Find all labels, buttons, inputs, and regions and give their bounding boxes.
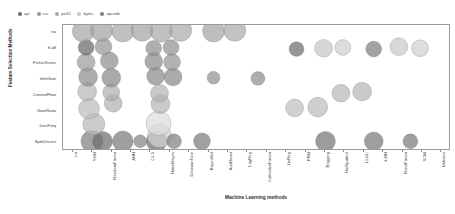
bubble-marker [146, 111, 171, 136]
bubble-marker [315, 39, 333, 57]
x-axis-tick-label: k-NN [384, 152, 388, 162]
bubble-marker [289, 42, 304, 57]
legend-label: rss [43, 12, 49, 16]
plot-area [62, 24, 450, 150]
x-axis-tick-label: Bagging [326, 152, 330, 167]
x-axis-title: Machine Learning methods [62, 196, 450, 201]
x-axis-tick-label: PRM [307, 152, 311, 161]
x-axis-tick-label: no [74, 152, 78, 157]
bubble-chart-figure: apirsspe32bytesopcode Feature Selection … [0, 0, 455, 214]
bubble-marker [134, 135, 147, 148]
legend-label: opcode [106, 12, 120, 16]
bubble-marker [102, 68, 121, 87]
legend-swatch-icon [37, 12, 41, 16]
bubble-marker [163, 40, 179, 56]
bubble-marker [308, 97, 328, 117]
legend-label: pe32 [61, 12, 70, 16]
x-axis-tick-label: kMeans [442, 152, 446, 167]
bubble-marker [203, 25, 225, 42]
legend-swatch-icon [18, 12, 22, 16]
y-axis-tick-label: tf-idf [48, 45, 56, 49]
x-axis-tick-label: SOM [423, 152, 427, 162]
y-axis-tick-label: SymUncert [35, 140, 56, 144]
bubble-marker [167, 134, 182, 149]
x-axis-tick-label: NaiveBayes [171, 152, 175, 174]
bubble-layer [63, 25, 449, 149]
bubble-marker [335, 40, 351, 56]
bubble-marker [77, 53, 95, 71]
bubble-marker [390, 38, 408, 56]
y-axis-tick-label: DocFreq [40, 124, 56, 128]
y-axis-tick-label: GainRatio [37, 108, 56, 112]
x-axis-tick-label: AdaBoost [229, 152, 233, 170]
y-axis-tick-label: FisherScore [33, 61, 56, 65]
legend-swatch-icon [100, 12, 104, 16]
x-axis-tick-label: BayesNet [210, 152, 214, 170]
x-axis-tick-label: RandomForest [113, 152, 117, 180]
bubble-marker [353, 82, 372, 101]
bubble-marker [316, 131, 336, 149]
bubble-marker [207, 71, 220, 84]
legend-swatch-icon [77, 12, 81, 16]
bubble-marker [112, 131, 133, 149]
bubble-marker [91, 25, 113, 41]
x-axis-tick-label: LinReg [287, 152, 291, 165]
bubble-marker [366, 41, 382, 57]
x-axis-tick-label: RandForest [404, 152, 408, 174]
x-axis-tick-label: DecisionTree [190, 152, 194, 177]
x-axis-tick-label: SVM [93, 152, 97, 161]
bubble-marker [412, 40, 429, 57]
bubble-marker [251, 72, 265, 86]
x-axis-tick-label: ANN [132, 152, 136, 161]
legend-item[interactable]: rss [37, 12, 49, 16]
legend-label: bytes [83, 12, 93, 16]
bubble-marker [78, 40, 94, 56]
x-axis-tick-label: C4.5 [151, 152, 155, 161]
bubble-marker [131, 25, 153, 41]
y-axis-tick-label: no [51, 30, 56, 34]
bubble-marker [146, 40, 162, 56]
bubble-marker [164, 54, 181, 71]
x-axis-tick-label: LogReg [248, 152, 252, 167]
bubble-marker [224, 25, 246, 41]
bubble-marker [332, 84, 350, 102]
legend-item[interactable]: api [18, 12, 30, 16]
legend-item[interactable]: opcode [100, 12, 120, 16]
legend-item[interactable]: pe32 [55, 12, 70, 16]
y-axis-labels: SymUncertDocFreqGainRatioControlFlowInfo… [0, 24, 60, 150]
x-axis-tick-label: LLGC [365, 152, 369, 163]
y-axis-tick-label: ControlFlow [33, 93, 56, 97]
bubble-marker [286, 99, 304, 117]
bubble-marker [364, 132, 383, 149]
legend-label: api [24, 12, 30, 16]
legend-item[interactable]: bytes [77, 12, 93, 16]
bubble-marker [150, 25, 172, 42]
bubble-marker [79, 98, 100, 119]
bubble-marker [151, 84, 169, 102]
bubble-marker [403, 134, 418, 149]
legend-swatch-icon [55, 12, 59, 16]
bubble-marker [112, 25, 134, 42]
bubble-marker [170, 25, 192, 41]
chart-legend: apirsspe32bytesopcode [18, 9, 120, 19]
x-axis-tick-label: CollectiveForest [268, 152, 272, 182]
x-axis-labels: noSVMRandomForestANNC4.5NaiveBayesDecisi… [62, 152, 450, 192]
bubble-marker [194, 133, 211, 149]
y-axis-tick-label: InfoGain [40, 77, 56, 81]
x-axis-tick-label: HotSpotted [345, 152, 349, 173]
